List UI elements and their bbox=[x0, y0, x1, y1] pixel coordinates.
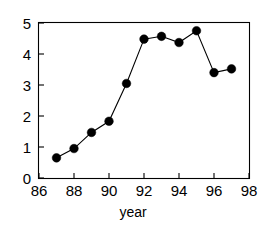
x-tick-label: 94 bbox=[171, 182, 188, 199]
y-axis-ticks bbox=[39, 23, 44, 178]
data-point bbox=[70, 144, 79, 153]
data-point bbox=[122, 79, 131, 88]
chart-container: 012345 86889092949698 year bbox=[0, 0, 268, 229]
data-point bbox=[157, 32, 166, 41]
data-point bbox=[210, 68, 219, 77]
x-tick-label: 98 bbox=[241, 182, 258, 199]
x-tick-label: 90 bbox=[101, 182, 118, 199]
data-point bbox=[87, 128, 96, 137]
series-markers bbox=[52, 26, 236, 162]
plot-frame-rect bbox=[39, 23, 250, 179]
x-axis-ticks bbox=[39, 173, 249, 178]
line-chart: 012345 86889092949698 year bbox=[0, 0, 268, 229]
data-point bbox=[105, 117, 114, 126]
x-axis-title: year bbox=[119, 204, 147, 220]
plot-frame bbox=[39, 23, 250, 179]
y-tick-label: 4 bbox=[23, 46, 31, 63]
series-line bbox=[57, 31, 232, 158]
y-tick-label: 3 bbox=[23, 77, 31, 94]
x-tick-label: 88 bbox=[66, 182, 83, 199]
data-point bbox=[175, 38, 184, 47]
data-point bbox=[140, 35, 149, 44]
x-tick-labels: 86889092949698 bbox=[31, 182, 258, 199]
data-point bbox=[227, 65, 236, 74]
y-tick-label: 2 bbox=[23, 108, 31, 125]
y-tick-label: 5 bbox=[23, 15, 31, 32]
x-tick-label: 86 bbox=[31, 182, 48, 199]
data-point bbox=[52, 154, 61, 163]
y-tick-labels: 012345 bbox=[23, 15, 31, 187]
x-tick-label: 96 bbox=[206, 182, 223, 199]
y-tick-label: 1 bbox=[23, 139, 31, 156]
data-point bbox=[192, 26, 201, 35]
x-tick-label: 92 bbox=[136, 182, 153, 199]
